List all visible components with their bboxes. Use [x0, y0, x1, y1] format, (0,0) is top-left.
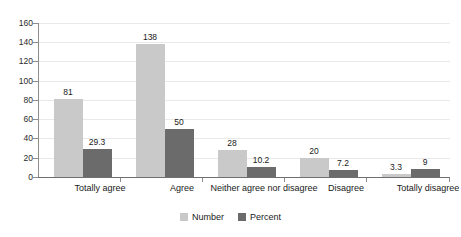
x-tick-mark-4: [366, 178, 367, 182]
y-tick-label-0: 0: [3, 173, 33, 182]
y-tick-mark-120: [33, 61, 38, 62]
bar-value-number: 138: [130, 32, 170, 42]
bar-percent[interactable]: [165, 129, 194, 177]
x-tick-mark-2: [202, 178, 203, 182]
bar-value-percent: 10.2: [241, 155, 281, 165]
x-tick-label-totally-disagree: Totally disagree: [370, 183, 461, 194]
y-tick-mark-140: [33, 42, 38, 43]
y-tick-mark-100: [33, 81, 38, 82]
x-tick-mark-1: [120, 178, 121, 182]
y-tick-label-160: 160: [3, 19, 33, 28]
y-tick-label-100: 100: [3, 77, 33, 86]
bar-percent[interactable]: [83, 149, 112, 177]
y-axis-line: [38, 23, 39, 178]
y-tick-mark-60: [33, 119, 38, 120]
y-tick-label-60: 60: [3, 115, 33, 124]
y-tick-mark-80: [33, 100, 38, 101]
bar-group-totally-disagree: 3.3 9: [370, 23, 461, 177]
bar-number[interactable]: [136, 44, 165, 177]
legend-item-percent[interactable]: Percent: [238, 212, 281, 222]
bar-value-percent: 7.2: [323, 158, 363, 168]
bar-value-percent: 29.3: [77, 137, 117, 147]
chart-legend: Number Percent: [0, 212, 461, 222]
y-tick-mark-0: [33, 177, 38, 178]
bar-value-number: 81: [48, 87, 88, 97]
legend-label: Number: [192, 212, 224, 222]
bar-value-number: 28: [212, 138, 252, 148]
bar-value-number: 20: [294, 146, 334, 156]
y-tick-label-120: 120: [3, 57, 33, 66]
legend-item-number[interactable]: Number: [180, 212, 224, 222]
x-tick-mark-5: [449, 178, 450, 182]
x-axis-line: [38, 177, 450, 178]
bar-percent[interactable]: [247, 167, 276, 177]
bar-percent[interactable]: [411, 169, 440, 177]
legend-swatch-icon: [180, 213, 188, 221]
legend-label: Percent: [250, 212, 281, 222]
bar-percent[interactable]: [329, 170, 358, 177]
y-tick-label-140: 140: [3, 38, 33, 47]
bar-value-percent: 9: [405, 157, 445, 167]
y-tick-label-80: 80: [3, 96, 33, 105]
y-tick-mark-160: [33, 23, 38, 24]
y-tick-mark-20: [33, 158, 38, 159]
plot-area: 81 29.3 138 50 28 10.2 20 7.2 3.3 9: [38, 23, 450, 177]
x-tick-mark-3: [284, 178, 285, 182]
y-tick-label-20: 20: [3, 154, 33, 163]
legend-swatch-icon: [238, 213, 246, 221]
bar-value-percent: 50: [159, 117, 199, 127]
y-tick-mark-40: [33, 138, 38, 139]
bar-chart: 81 29.3 138 50 28 10.2 20 7.2 3.3 9: [0, 0, 461, 237]
y-tick-label-40: 40: [3, 134, 33, 143]
